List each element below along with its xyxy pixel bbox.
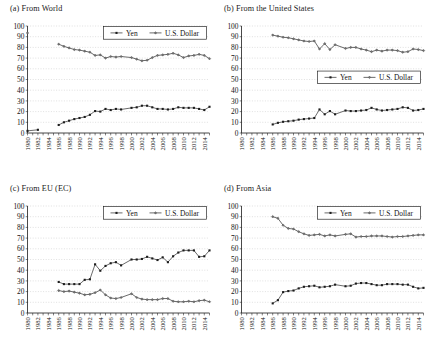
data-point-yen: [381, 284, 383, 286]
series-yen: [272, 282, 425, 304]
data-point-yen: [386, 109, 388, 111]
x-tick-label: 2012: [404, 317, 411, 330]
data-point-yen: [141, 105, 143, 107]
x-tick-label: 1982: [34, 317, 41, 330]
data-point-usd: [73, 48, 76, 51]
data-point-yen: [151, 106, 153, 108]
chart-panel-c: (c) From EU (EC) 01020304050607080901001…: [0, 180, 214, 359]
data-point-usd: [146, 59, 149, 62]
x-tick-label: 1990: [290, 316, 297, 330]
data-point-yen: [370, 283, 372, 285]
data-point-yen: [99, 270, 101, 272]
data-point-usd: [297, 230, 300, 233]
data-point-yen: [391, 108, 393, 110]
data-point-yen: [68, 120, 70, 122]
y-tick-label: 30: [17, 97, 25, 106]
data-point-yen: [37, 129, 39, 131]
data-point-usd: [318, 233, 321, 236]
data-point-usd: [83, 293, 86, 296]
data-point-yen: [417, 287, 419, 289]
data-point-usd: [370, 235, 373, 238]
legend-label-usd: U.S. Dollar: [165, 209, 199, 218]
data-point-usd: [156, 298, 159, 301]
data-point-yen: [334, 284, 336, 286]
x-tick-label: 2012: [404, 137, 411, 150]
data-point-yen: [110, 109, 112, 111]
x-tick-label: 2014: [201, 316, 208, 330]
data-point-usd: [407, 235, 410, 238]
data-point-yen: [94, 263, 96, 265]
data-point-yen: [104, 108, 106, 110]
data-point-usd: [141, 59, 144, 62]
legend-label-yen: Yen: [126, 29, 138, 38]
data-point-usd: [151, 298, 154, 301]
data-point-yen: [208, 106, 210, 108]
data-point-yen: [58, 124, 60, 126]
x-tick-label: 1996: [107, 136, 114, 150]
data-point-yen: [182, 107, 184, 109]
y-tick-label: 10: [231, 298, 239, 307]
data-point-usd: [303, 40, 306, 43]
data-point-yen: [272, 123, 274, 125]
x-tick-label: 2008: [170, 316, 177, 330]
y-tick-label: 20: [231, 107, 239, 116]
data-point-yen: [99, 111, 101, 113]
x-tick-label: 1992: [300, 137, 307, 150]
x-tick-label: 1990: [76, 136, 83, 150]
data-point-yen: [162, 108, 164, 110]
x-tick-labels: 1980198219841986198819901992199419961998…: [24, 136, 208, 150]
plot-area-c: 0102030405060708090100198019821984198619…: [0, 180, 214, 359]
data-point-usd: [370, 50, 373, 53]
data-point-yen: [344, 109, 346, 111]
data-point-usd: [68, 290, 71, 293]
legend-label-yen: Yen: [126, 209, 138, 218]
series-yen: [58, 249, 211, 285]
data-point-yen: [89, 114, 91, 116]
x-tick-label: 1996: [321, 136, 328, 150]
x-tick-label: 2006: [159, 136, 166, 150]
legend-label-yen: Yen: [340, 73, 352, 82]
data-point-yen: [350, 110, 352, 112]
data-point-yen: [287, 120, 289, 122]
y-tick-label: 80: [231, 43, 239, 52]
data-point-usd: [391, 49, 394, 52]
chart-svg-d: 0102030405060708090100198019821984198619…: [214, 180, 428, 359]
data-point-usd: [120, 296, 123, 299]
data-point-usd: [208, 300, 211, 303]
y-tick-label: 90: [231, 32, 239, 41]
data-point-yen: [292, 120, 294, 122]
x-tick-labels: 1980198219841986198819901992199419961998…: [238, 316, 422, 330]
data-point-yen: [198, 256, 200, 258]
data-point-usd: [120, 55, 123, 58]
data-point-usd: [396, 49, 399, 52]
data-point-usd: [417, 234, 420, 237]
data-point-yen: [156, 259, 158, 261]
data-point-yen: [115, 108, 117, 110]
data-point-yen: [89, 278, 91, 280]
x-tick-label: 1998: [118, 316, 125, 330]
data-point-yen: [188, 249, 190, 251]
series-line: [28, 130, 38, 131]
data-point-yen: [292, 289, 294, 291]
data-point-yen: [350, 285, 352, 287]
data-point-usd: [417, 48, 420, 51]
data-point-usd: [375, 49, 378, 52]
x-tick-label: 1986: [55, 136, 62, 150]
x-tick-label: 2012: [190, 137, 197, 150]
y-tick-label: 30: [231, 277, 239, 286]
y-axis: 0102030405060708090100: [13, 22, 27, 138]
x-tick-label: 2006: [159, 316, 166, 330]
data-point-yen: [203, 255, 205, 257]
data-point-usd: [344, 233, 347, 236]
data-point-yen: [365, 282, 367, 284]
data-point-yen: [73, 118, 75, 120]
data-point-yen: [282, 121, 284, 123]
x-tick-label: 1998: [332, 316, 339, 330]
data-point-yen: [308, 118, 310, 120]
data-point-yen: [167, 108, 169, 110]
data-point-yen: [193, 249, 195, 251]
data-point-yen: [26, 130, 28, 132]
legend-label-usd: U.S. Dollar: [379, 209, 413, 218]
data-point-usd: [277, 35, 280, 38]
chart-panel-a: (a) From World 0102030405060708090100198…: [0, 0, 214, 179]
